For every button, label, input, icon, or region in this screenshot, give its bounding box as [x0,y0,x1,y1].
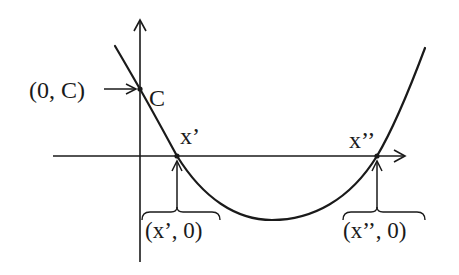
y-intercept-pointer-arrow [104,84,136,94]
root1-dot [174,153,179,158]
root2-pointer-arrow [372,161,382,208]
parabola-diagram: (0, C) C x’ x’’ (x’, 0) (x’’, 0) [0,0,459,275]
root2-dot [374,153,379,158]
root2-point-label: (x’’, 0) [343,218,406,243]
y-intercept-point-label: (0, C) [29,77,85,103]
y-intercept-dot [137,86,142,91]
root1-pointer-arrow [172,161,182,208]
root1-point-label: (x’, 0) [145,218,202,243]
root2-mark: x’’ [349,127,375,153]
parabola-curve [115,46,425,220]
y-intercept-mark: C [149,85,165,111]
root1-mark: x’ [180,123,200,149]
